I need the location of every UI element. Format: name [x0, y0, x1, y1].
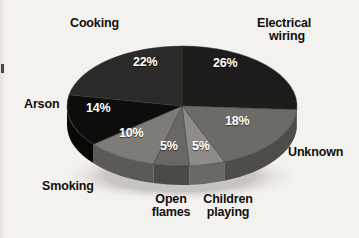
- pie-top-face: [67, 46, 297, 166]
- category-label-open-flames-line1: Open: [155, 192, 186, 206]
- category-label-children-playing-line1: Children: [203, 192, 253, 206]
- chart-canvas: 22% 26% 14% 18% 10% 5% 5% Cooking Electr…: [0, 0, 359, 238]
- category-label-open-flames-line2: flames: [152, 205, 191, 219]
- pie-side-open-flames: [153, 164, 189, 185]
- category-label-children-playing: Children playing: [197, 193, 259, 219]
- category-label-open-flames: Open flames: [145, 193, 197, 219]
- category-label-children-playing-line2: playing: [207, 205, 250, 219]
- category-label-electrical-wiring-line1: Electrical: [257, 16, 311, 30]
- pie-slice-electrical-wiring: [182, 46, 297, 110]
- category-label-smoking: Smoking: [42, 180, 94, 193]
- category-label-cooking: Cooking: [70, 17, 119, 30]
- category-label-arson: Arson: [24, 98, 59, 111]
- category-label-unknown: Unknown: [288, 146, 343, 159]
- category-label-electrical-wiring: Electrical wiring: [257, 17, 339, 43]
- category-label-electrical-wiring-line2: wiring: [257, 30, 305, 43]
